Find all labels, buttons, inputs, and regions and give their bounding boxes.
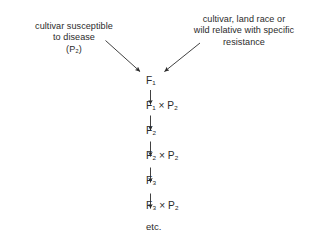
generation-node-f3-cross-p2: F₃ × P₂ (146, 200, 266, 212)
spacer (146, 187, 266, 200)
spacer (146, 162, 266, 175)
spacer (146, 112, 266, 125)
generation-node-f2-cross-p2: F₂ × P₂ (146, 150, 266, 162)
generation-chain: F₁ F₁ × P₂ F₂ F₂ × P₂ F₃ F₃ × P₂ etc. (146, 75, 266, 233)
generation-node-f2: F₂ (146, 125, 266, 137)
caption-susceptible-parent: cultivar susceptible to disease (P₂) (8, 21, 140, 55)
generation-node-f1-cross-p2: F₁ × P₂ (146, 100, 266, 112)
generation-node-etc: etc. (146, 221, 266, 233)
spacer (146, 137, 266, 150)
generation-node-f3: F₃ (146, 175, 266, 187)
caption-resistant-parent: cultivar, land race or wild relative wit… (176, 14, 312, 48)
generation-node-f1: F₁ (146, 75, 266, 87)
backcross-scheme-diagram: cultivar susceptible to disease (P₂) cul… (0, 0, 315, 249)
spacer (146, 87, 266, 100)
spacer (146, 212, 266, 221)
